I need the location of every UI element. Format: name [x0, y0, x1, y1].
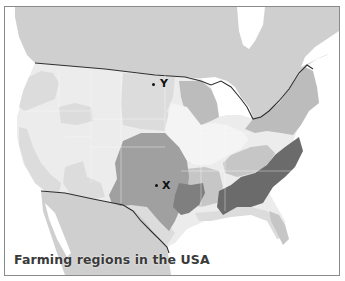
- farming-regions-map: [5, 7, 339, 275]
- marker-x-dot: [155, 184, 158, 187]
- marker-y-dot: [152, 83, 155, 86]
- marker-y-label: Y: [160, 77, 168, 90]
- map-frame: Y X Farming regions in the USA: [4, 6, 340, 276]
- region-mountain-1: [59, 103, 93, 125]
- map-title: Farming regions in the USA: [14, 252, 210, 267]
- marker-x-label: X: [162, 179, 170, 192]
